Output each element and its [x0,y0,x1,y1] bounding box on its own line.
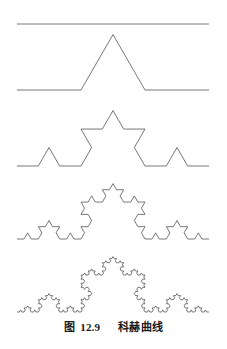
koch-curve-order-2 [17,111,209,166]
figure-caption: 图 12.9 科赫曲线 [0,318,227,334]
figure-caption-title: 科赫曲线 [118,321,163,333]
figure-caption-label: 图 [64,321,75,333]
koch-curve-canvas [0,0,227,349]
koch-curve-order-1 [17,35,209,90]
figure-caption-number: 12.9 [78,321,102,333]
koch-curve-order-3 [17,184,209,239]
koch-curve-order-4 [17,257,209,312]
koch-curve-figure: 图 12.9 科赫曲线 [0,0,227,349]
